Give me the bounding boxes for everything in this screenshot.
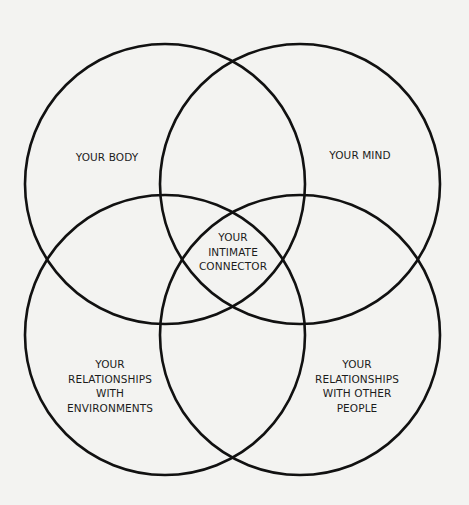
label-relationships-other-people: YOUR RELATIONSHIPS WITH OTHER PEOPLE: [315, 357, 399, 415]
circle-your-mind: [160, 44, 440, 324]
label-your-body: YOUR BODY: [76, 150, 139, 165]
label-your-mind: YOUR MIND: [329, 148, 390, 163]
label-relationships-environments: YOUR RELATIONSHIPS WITH ENVIRONMENTS: [67, 357, 153, 415]
label-line: RELATIONSHIPS: [315, 372, 399, 387]
circle-your-body: [25, 44, 305, 324]
label-line: YOUR: [199, 230, 267, 245]
label-line: WITH: [67, 386, 153, 401]
label-line: YOUR: [67, 357, 153, 372]
label-line: YOUR: [315, 357, 399, 372]
label-line: WITH OTHER: [315, 386, 399, 401]
label-line: YOUR BODY: [76, 150, 139, 165]
label-line: YOUR MIND: [329, 148, 390, 163]
venn-diagram: YOUR BODY YOUR MIND YOUR INTIMATE CONNEC…: [0, 0, 469, 505]
label-intimate-connector: YOUR INTIMATE CONNECTOR: [199, 230, 267, 274]
label-line: RELATIONSHIPS: [67, 372, 153, 387]
label-line: PEOPLE: [315, 401, 399, 416]
label-line: INTIMATE: [199, 245, 267, 260]
label-line: CONNECTOR: [199, 259, 267, 274]
label-line: ENVIRONMENTS: [67, 401, 153, 416]
